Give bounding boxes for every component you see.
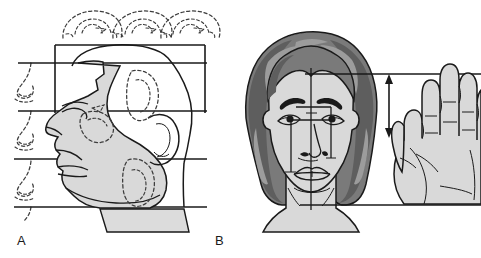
figure-canvas: .ln { stroke:#1a1a1a; stroke-width:1.6; … bbox=[0, 0, 481, 258]
panel-label-b: B bbox=[215, 233, 224, 248]
panel-label-a: A bbox=[17, 233, 26, 248]
anatomical-figure: .ln { stroke:#1a1a1a; stroke-width:1.6; … bbox=[0, 0, 481, 258]
neck-shaded-block bbox=[100, 209, 189, 232]
posterior-neck-line bbox=[183, 163, 184, 207]
